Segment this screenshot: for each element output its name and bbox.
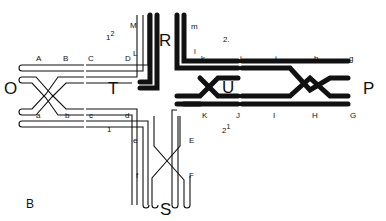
locus-h: h xyxy=(314,55,318,63)
locus-M: M xyxy=(130,22,137,30)
arm-S xyxy=(143,110,190,208)
locus-I: I xyxy=(273,112,275,120)
locus-A: A xyxy=(36,55,41,63)
locus-B: B xyxy=(63,55,68,63)
arm-label-P: P xyxy=(363,80,374,97)
center-label-U: U xyxy=(222,79,234,96)
locus-i: i xyxy=(275,55,277,63)
locus-c: c xyxy=(89,112,93,120)
locus-k: k xyxy=(201,55,205,63)
locus-a: a xyxy=(36,112,40,120)
panel-label: B xyxy=(26,198,34,210)
locus-l: l xyxy=(194,48,196,56)
annotation-2: 2. xyxy=(223,36,230,44)
annotation-1-2: 12 xyxy=(106,34,114,42)
locus-D: D xyxy=(125,55,131,63)
center-label-T: T xyxy=(108,80,118,97)
locus-F: F xyxy=(189,172,194,180)
arm-P xyxy=(242,61,348,104)
locus-J: J xyxy=(236,112,240,120)
locus-m: m xyxy=(191,23,198,31)
locus-b: b xyxy=(65,112,69,120)
annotation-2-1: 21 xyxy=(222,127,230,135)
arm-label-S: S xyxy=(160,201,171,218)
locus-K: K xyxy=(202,112,207,120)
arm-label-O: O xyxy=(4,80,17,97)
chromosome-drawing: .ol { fill: none; stroke: #111; stroke-w… xyxy=(0,0,386,221)
locus-H: H xyxy=(312,112,318,120)
annotation-1: 1 xyxy=(107,126,111,134)
locus-C: C xyxy=(88,55,94,63)
locus-j: j xyxy=(240,55,242,63)
arm-O xyxy=(19,15,148,205)
locus-d: d xyxy=(125,112,129,120)
locus-L: L xyxy=(133,50,137,58)
arm-label-R: R xyxy=(159,32,171,49)
chromosome-diagram: .ol { fill: none; stroke: #111; stroke-w… xyxy=(0,0,386,221)
locus-e: e xyxy=(133,137,137,145)
locus-g: g xyxy=(349,55,353,63)
locus-E: E xyxy=(189,137,194,145)
locus-f: f xyxy=(136,172,138,180)
locus-G: G xyxy=(350,112,356,120)
